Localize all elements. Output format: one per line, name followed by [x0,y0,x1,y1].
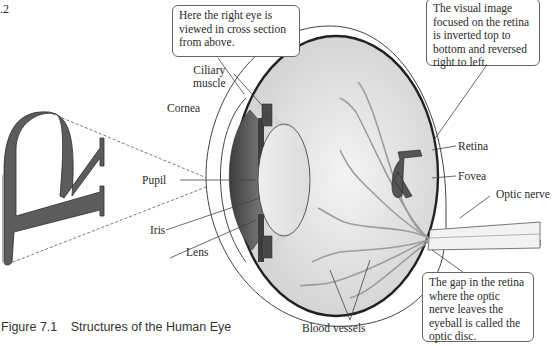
figure-caption: Figure 7.1 Structures of the Human Eye [1,320,231,334]
object-letter-r [2,112,104,265]
label-cornea: Cornea [167,102,200,115]
figure-number: Figure 7.1 [1,320,57,334]
figure-title: Structures of the Human Eye [71,320,232,334]
label-ciliary-line1: Ciliary [193,64,226,77]
label-retina: Retina [458,140,488,153]
label-ciliary-muscle: Ciliary muscle [193,64,226,90]
label-blood-vessels: Blood vessels [302,322,366,335]
callout-inverted-image: The visual image focused on the retina i… [426,0,540,66]
label-iris: Iris [150,224,165,237]
callout-cross-section: Here the right eye is viewed in cross se… [172,5,300,57]
label-lens: Lens [186,246,208,259]
label-fovea: Fovea [458,170,486,183]
callout-cross-section-text: Here the right eye is viewed in cross se… [179,9,286,48]
callout-optic-disc: The gap in the retina where the optic ne… [422,272,534,342]
page-number-fragment: .2 [0,2,9,17]
label-ciliary-line2: muscle [193,77,226,90]
label-optic-nerve: Optic nerve [496,188,550,201]
figure-eye-structures: .2 Here the right eye is viewed in cross… [0,0,552,346]
callout-inverted-image-text: The visual image focused on the retina i… [433,2,529,68]
callout-optic-disc-text: The gap in the retina where the optic ne… [429,276,524,342]
label-pupil: Pupil [142,174,166,187]
